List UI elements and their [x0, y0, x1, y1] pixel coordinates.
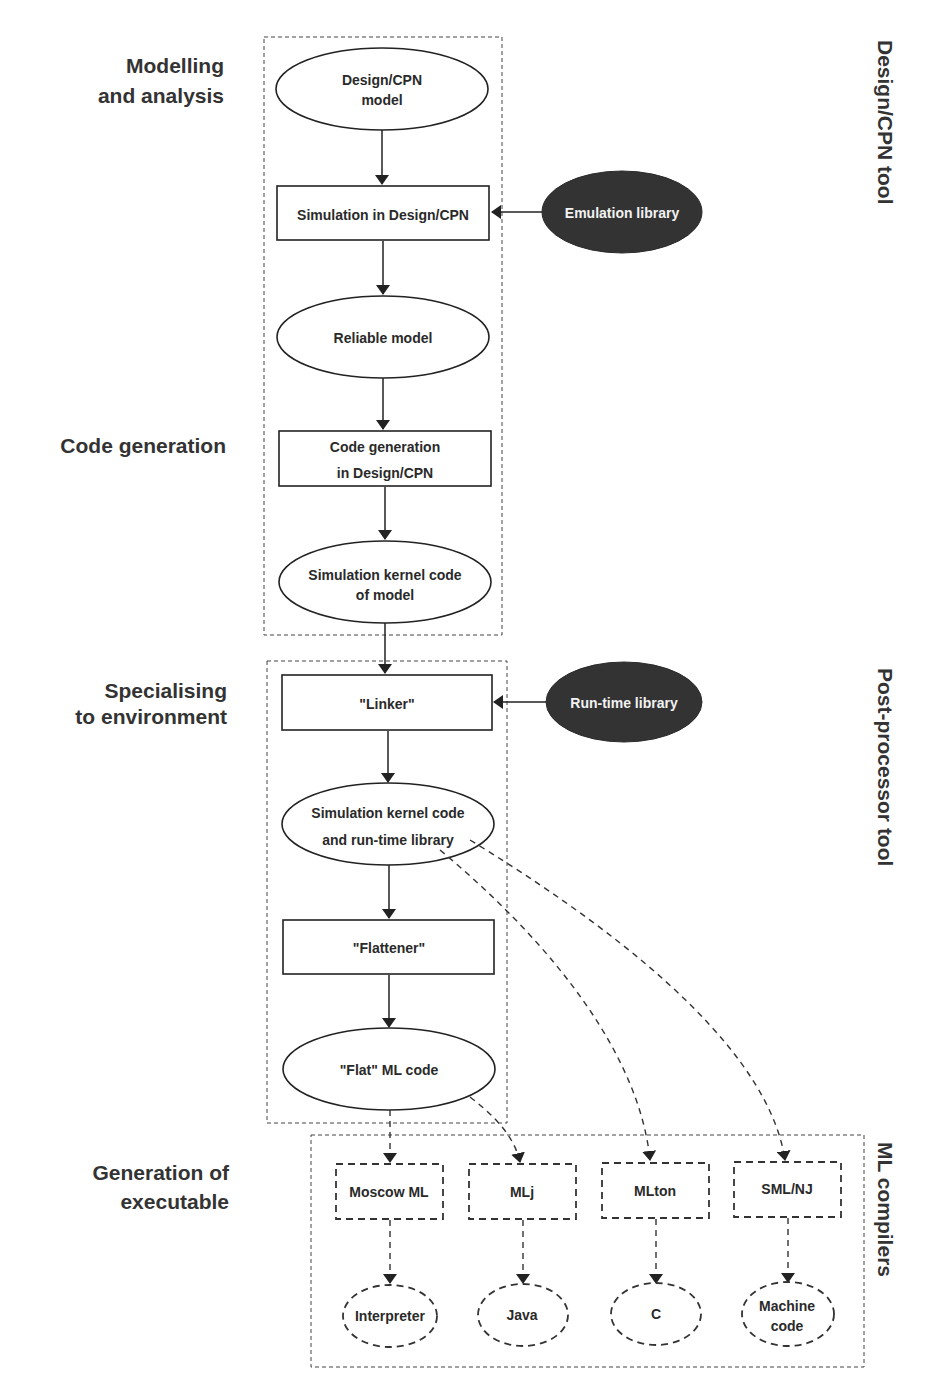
dashed-arrow-to-smlnj — [470, 840, 785, 1160]
stage-label-specialising: Specialising — [104, 679, 227, 702]
tool-label-ml-compilers: ML compilers — [874, 1142, 897, 1277]
emulation-library-label: Emulation library — [565, 205, 680, 221]
compiler-moscow-ml-label: Moscow ML — [349, 1184, 429, 1200]
dashed-arrow-to-mlj — [470, 1097, 520, 1162]
reliable-model-label: Reliable model — [334, 330, 433, 346]
kernel-code-label-2: of model — [356, 587, 414, 603]
simulation-label: Simulation in Design/CPN — [297, 207, 469, 223]
compiler-smlnj-label: SML/NJ — [761, 1181, 812, 1197]
kernel-runtime-label-2: and run-time library — [322, 832, 454, 848]
flat-ml-code-label: "Flat" ML code — [340, 1062, 439, 1078]
compiler-mlton-label: MLton — [634, 1183, 676, 1199]
output-c-label: C — [651, 1306, 661, 1322]
output-interpreter-label: Interpreter — [355, 1308, 426, 1324]
output-machine-code — [742, 1282, 834, 1346]
tool-label-post-processor: Post-processor tool — [874, 668, 897, 866]
output-java-label: Java — [506, 1307, 537, 1323]
tool-chain-diagram: Modelling and analysis Code generation S… — [0, 0, 935, 1398]
design-cpn-model-label-2: model — [361, 92, 402, 108]
kernel-runtime-label: Simulation kernel code — [311, 805, 464, 821]
stage-label-executable: executable — [120, 1190, 229, 1213]
output-machine-code-label-2: code — [771, 1318, 804, 1334]
kernel-runtime-node — [282, 783, 494, 865]
runtime-library-label: Run-time library — [570, 695, 678, 711]
tool-label-design-cpn: Design/CPN tool — [874, 40, 897, 205]
design-cpn-model-label: Design/CPN — [342, 72, 422, 88]
stage-label-analysis: and analysis — [98, 84, 224, 107]
linker-label: "Linker" — [359, 696, 414, 712]
compiler-mlj-label: MLj — [510, 1184, 534, 1200]
flattener-label: "Flattener" — [353, 940, 425, 956]
stage-label-modelling: Modelling — [126, 54, 224, 77]
output-machine-code-label: Machine — [759, 1298, 815, 1314]
dashed-arrow-to-mlton — [440, 850, 650, 1160]
code-generation-label-2: in Design/CPN — [337, 465, 433, 481]
stage-label-environment: to environment — [75, 705, 227, 728]
stage-label-code-generation: Code generation — [60, 434, 226, 457]
design-cpn-model-node — [276, 48, 488, 130]
code-generation-label: Code generation — [330, 439, 440, 455]
kernel-code-label: Simulation kernel code — [308, 567, 461, 583]
stage-label-generation: Generation of — [92, 1161, 230, 1184]
